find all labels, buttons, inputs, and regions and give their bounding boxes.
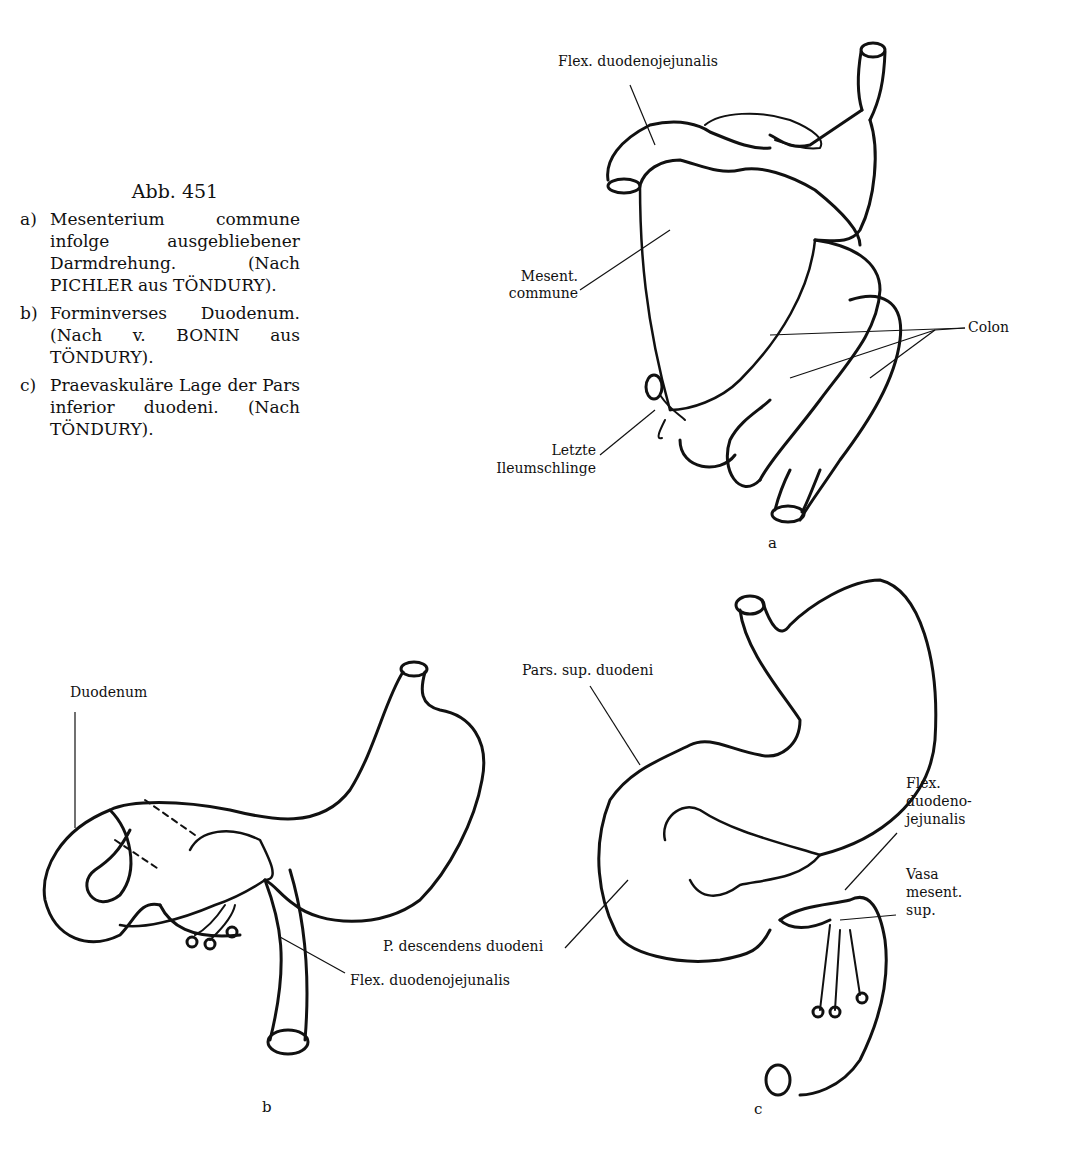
figure-b-drawing — [44, 662, 484, 1054]
caption-letter: b) — [20, 302, 50, 368]
label-a-letzte-2: Ileumschlinge — [488, 460, 596, 477]
caption-title: Abb. 451 — [50, 180, 300, 202]
figure-caption: Abb. 451 a) Mesenterium commune infolge … — [20, 180, 300, 446]
figure-c-drawing — [599, 580, 936, 1095]
caption-text: Praevaskuläre Lage der Pars inferior duo… — [50, 374, 300, 440]
label-c-flex-1: Flex. — [906, 775, 941, 792]
figure-b-letter: b — [262, 1098, 272, 1116]
caption-item-c: c) Praevaskuläre Lage der Pars inferior … — [20, 374, 300, 440]
label-c-vasa-1: Vasa — [906, 866, 939, 883]
caption-item-b: b) Forminverses Duodenum. (Nach v. BONIN… — [20, 302, 300, 368]
label-a-mesent-1: Mesent. — [508, 268, 578, 285]
label-c-flex-3: jejunalis — [906, 811, 966, 828]
label-b-flex-duodenojejunalis: Flex. duodenojejunalis — [350, 972, 510, 989]
caption-text: Mesenterium commune infolge ausgeblieben… — [50, 208, 300, 296]
caption-item-a: a) Mesenterium commune infolge ausgeblie… — [20, 208, 300, 296]
label-a-colon: Colon — [968, 319, 1009, 336]
figure-c-letter: c — [754, 1100, 762, 1118]
caption-letter: c) — [20, 374, 50, 440]
label-a-mesent-2: commune — [498, 285, 578, 302]
anatomy-illustrations — [0, 0, 1084, 1151]
figure-a-letter: a — [768, 534, 777, 552]
label-c-flex-2: duodeno- — [906, 793, 972, 810]
label-c-pars-sup: Pars. sup. duodeni — [522, 662, 653, 679]
caption-text: Forminverses Duodenum. (Nach v. BONIN au… — [50, 302, 300, 368]
figure-a-drawing — [608, 43, 901, 522]
label-a-flex-duodenojejunalis: Flex. duodenojejunalis — [558, 53, 718, 70]
label-a-letzte-1: Letzte — [488, 442, 596, 459]
label-b-duodenum: Duodenum — [70, 684, 147, 701]
label-c-vasa-3: sup. — [906, 902, 936, 919]
label-c-p-descendens: P. descendens duodeni — [383, 938, 543, 955]
label-c-vasa-2: mesent. — [906, 884, 962, 901]
caption-letter: a) — [20, 208, 50, 296]
